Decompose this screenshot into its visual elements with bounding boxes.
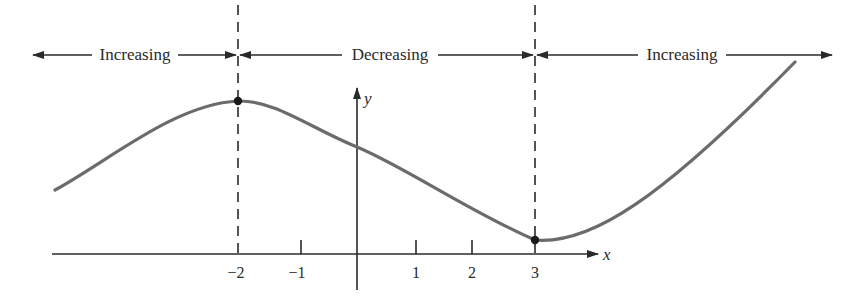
tick-label-neg2: −2 xyxy=(227,264,244,281)
interval-increasing-left: Increasing xyxy=(33,45,236,64)
local-minimum-point xyxy=(531,236,539,244)
y-axis-label: y xyxy=(362,89,372,108)
interval-label: Increasing xyxy=(647,45,718,64)
interval-label: Decreasing xyxy=(352,45,429,64)
interval-label: Increasing xyxy=(100,45,171,64)
interval-decreasing: Decreasing xyxy=(240,45,533,64)
tick-label-1: 1 xyxy=(412,264,420,281)
tick-label-2: 2 xyxy=(468,264,476,281)
interval-increasing-right: Increasing xyxy=(537,45,832,64)
x-ticks xyxy=(301,240,472,254)
tick-label-3: 3 xyxy=(531,264,539,281)
local-maximum-point xyxy=(234,97,242,105)
tick-label-neg1: −1 xyxy=(288,264,305,281)
monotonicity-diagram: Increasing Decreasing Increasing x y −2 … xyxy=(0,0,860,296)
function-curve xyxy=(55,62,795,240)
x-axis-label: x xyxy=(602,245,611,264)
